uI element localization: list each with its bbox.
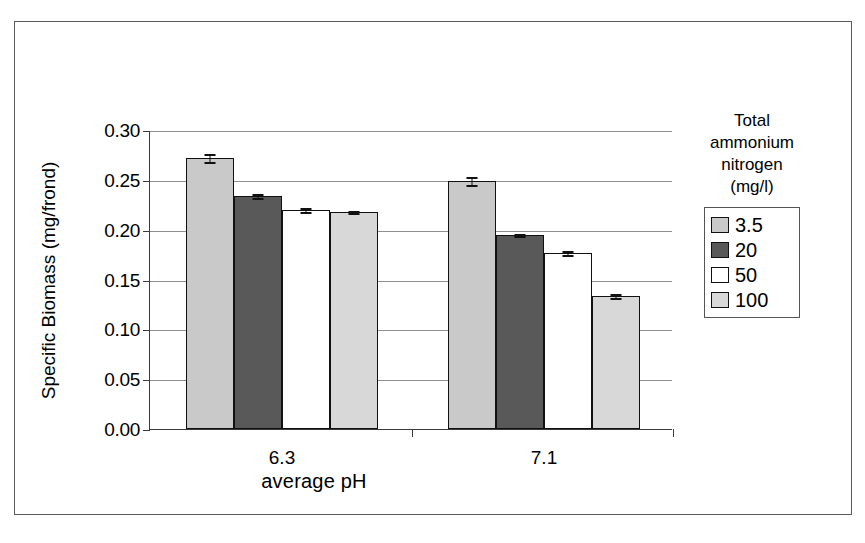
legend-item[interactable]: 100 bbox=[711, 287, 794, 312]
legend-title-line-3: nitrogen bbox=[688, 154, 816, 176]
y-tick-mark bbox=[143, 430, 150, 431]
y-tick-label: 0.00 bbox=[104, 419, 140, 441]
bar-slot bbox=[282, 131, 330, 429]
x-tick-mark bbox=[412, 429, 413, 437]
y-tick-label: 0.30 bbox=[104, 120, 140, 142]
x-category-label: 7.1 bbox=[531, 447, 557, 469]
error-bar bbox=[306, 208, 307, 214]
bar[interactable] bbox=[544, 253, 592, 429]
error-bar bbox=[258, 194, 259, 200]
bar[interactable] bbox=[592, 296, 640, 429]
legend-title-line-4: (mg/l) bbox=[688, 176, 816, 198]
y-tick-label: 0.15 bbox=[104, 270, 140, 292]
x-tick-mark bbox=[673, 429, 674, 437]
y-tick-label: 0.05 bbox=[104, 369, 140, 391]
bar[interactable] bbox=[448, 181, 496, 429]
error-bar bbox=[354, 211, 355, 215]
x-axis-title: average pH bbox=[149, 470, 479, 493]
error-bar bbox=[472, 177, 473, 187]
bar[interactable] bbox=[186, 158, 234, 429]
bar[interactable] bbox=[330, 212, 378, 429]
bar-group bbox=[448, 131, 640, 429]
bar-slot bbox=[234, 131, 282, 429]
y-tick-mark bbox=[143, 330, 150, 331]
bar[interactable] bbox=[496, 235, 544, 429]
legend-swatch-icon bbox=[711, 217, 729, 233]
legend-title: Total ammonium nitrogen (mg/l) bbox=[688, 110, 816, 198]
y-tick-mark bbox=[143, 380, 150, 381]
legend-swatch-icon bbox=[711, 292, 729, 308]
error-bar bbox=[210, 154, 211, 164]
y-tick-label: 0.25 bbox=[104, 170, 140, 192]
y-tick-mark bbox=[143, 131, 150, 132]
x-category-label: 6.3 bbox=[269, 447, 295, 469]
legend-item[interactable]: 50 bbox=[711, 262, 794, 287]
bar-group bbox=[186, 131, 378, 429]
y-tick-mark bbox=[143, 281, 150, 282]
y-axis-title: Specific Biomass (mg/frond) bbox=[36, 131, 62, 430]
bar-slot bbox=[448, 131, 496, 429]
legend-item[interactable]: 3.5 bbox=[711, 212, 794, 237]
legend-box: 3.52050100 bbox=[704, 207, 800, 318]
bar-slot bbox=[544, 131, 592, 429]
chart-figure: Specific Biomass (mg/frond) 0.000.050.10… bbox=[0, 0, 865, 543]
bar-slot bbox=[592, 131, 640, 429]
legend-item[interactable]: 20 bbox=[711, 237, 794, 262]
plot-area: 0.000.050.100.150.200.250.30 6.37.1 bbox=[149, 131, 672, 430]
bar-slot bbox=[330, 131, 378, 429]
legend-title-line-2: ammonium bbox=[688, 132, 816, 154]
legend: Total ammonium nitrogen (mg/l) 3.5205010… bbox=[688, 110, 816, 318]
y-tick-label: 0.20 bbox=[104, 220, 140, 242]
bar-slot bbox=[496, 131, 544, 429]
y-tick-label: 0.10 bbox=[104, 319, 140, 341]
legend-swatch-icon bbox=[711, 242, 729, 258]
legend-item-label: 100 bbox=[735, 290, 768, 310]
bar-slot bbox=[186, 131, 234, 429]
error-bar bbox=[568, 251, 569, 257]
y-tick-mark bbox=[143, 231, 150, 232]
legend-title-line-1: Total bbox=[688, 110, 816, 132]
legend-item-label: 20 bbox=[735, 240, 757, 260]
y-tick-mark bbox=[143, 181, 150, 182]
error-bar bbox=[520, 234, 521, 238]
error-bar bbox=[616, 294, 617, 300]
legend-item-label: 50 bbox=[735, 265, 757, 285]
bar[interactable] bbox=[282, 210, 330, 429]
legend-item-label: 3.5 bbox=[735, 215, 763, 235]
legend-swatch-icon bbox=[711, 267, 729, 283]
bar[interactable] bbox=[234, 196, 282, 429]
